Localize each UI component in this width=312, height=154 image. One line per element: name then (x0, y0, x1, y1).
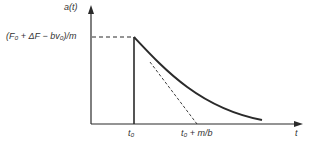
tick-t0: t₀ (128, 128, 134, 138)
x-axis-arrow-icon (294, 121, 303, 127)
acceleration-diagram (0, 0, 312, 154)
level-label: (F₀ + ΔF − bv₀)/m (6, 31, 76, 41)
tangent-dashed-line (150, 62, 197, 124)
x-axis-label: t (295, 128, 298, 138)
decay-curve (134, 37, 262, 120)
y-axis-arrow-icon (88, 5, 94, 14)
tick-t0-plus-m-over-b: t₀ + m/b (181, 128, 213, 138)
y-axis-label: a(t) (64, 2, 78, 12)
